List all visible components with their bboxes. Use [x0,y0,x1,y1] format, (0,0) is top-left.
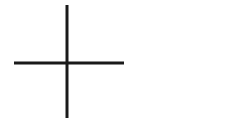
canvas-background [0,0,231,120]
plus-sign-drawing [0,0,231,120]
drawing-canvas [0,0,231,120]
